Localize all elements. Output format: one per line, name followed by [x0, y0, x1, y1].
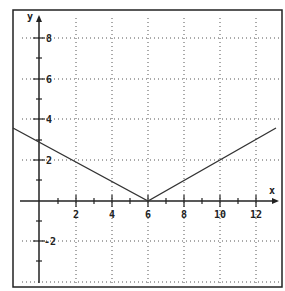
x-axis-label: x: [269, 185, 275, 196]
x-tick-label: 2: [73, 209, 79, 220]
function-line: [13, 128, 276, 201]
x-tick-label: 4: [109, 209, 115, 220]
y-axis-arrow-icon: [36, 15, 42, 22]
x-tick-label: 8: [181, 209, 187, 220]
x-tick-label: 10: [214, 209, 226, 220]
y-axis-label: y: [27, 11, 33, 22]
y-tick-label: 4: [46, 114, 52, 125]
y-tick-label: 6: [46, 74, 52, 85]
y-tick-label: 8: [46, 33, 52, 44]
y-tick-label: -2: [44, 236, 56, 247]
x-tick-label: 12: [250, 209, 262, 220]
horizontal-grid: [22, 38, 280, 282]
chart: y x 2 4 6 8 10 12 8 6 4 2 -2: [0, 0, 285, 291]
vertical-grid: [76, 18, 256, 284]
x-tick-label: 6: [145, 209, 151, 220]
y-tick-label: 2: [46, 155, 52, 166]
x-axis-arrow-icon: [272, 198, 279, 204]
